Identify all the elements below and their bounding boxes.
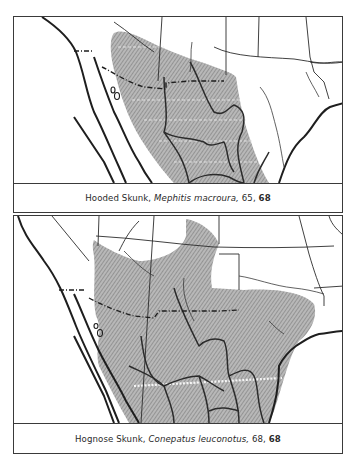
common-name: Hognose Skunk,: [75, 434, 146, 444]
plate-ref: 68: [259, 193, 271, 203]
map-panel-hooded-skunk: Hooded Skunk, Mephitis macroura, 65, 68: [13, 16, 343, 213]
plate-ref: 68: [269, 434, 281, 444]
page-ref: 65,: [242, 193, 256, 203]
range-map-graphic: [14, 17, 342, 183]
range-map: [14, 216, 342, 423]
range-area: [111, 31, 269, 183]
range-map-graphic: [14, 216, 342, 423]
common-name: Hooded Skunk,: [85, 193, 151, 203]
range-map: [14, 17, 342, 183]
map-panel-hognose-skunk: Hognose Skunk, Conepatus leuconotus, 68,…: [13, 215, 343, 454]
map-caption: Hognose Skunk, Conepatus leuconotus, 68,…: [14, 423, 342, 453]
page-ref: 68,: [252, 434, 266, 444]
scientific-name: Conepatus leuconotus,: [148, 434, 249, 444]
scientific-name: Mephitis macroura,: [154, 193, 239, 203]
map-caption: Hooded Skunk, Mephitis macroura, 65, 68: [14, 183, 342, 212]
